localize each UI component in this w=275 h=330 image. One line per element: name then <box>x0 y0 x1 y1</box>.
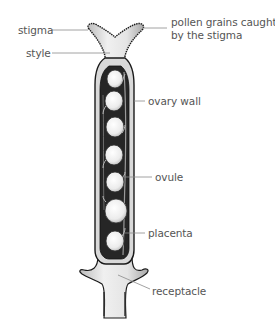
label-ovary-wall: ovary wall <box>148 95 201 108</box>
ovule-7 <box>106 231 124 251</box>
ovule-2 <box>105 91 123 111</box>
label-receptacle: receptacle <box>152 285 206 298</box>
label-placenta: placenta <box>148 227 193 240</box>
label-pollen-line2: by the stigma <box>171 29 242 42</box>
label-stigma: stigma <box>18 24 53 37</box>
ovule-4 <box>105 145 123 165</box>
label-ovule: ovule <box>155 171 183 184</box>
carpel-diagram: stigma style pollen grains caught by the… <box>0 0 275 330</box>
ovule-5 <box>106 172 124 192</box>
receptacle-shape <box>80 256 148 318</box>
ovule-6 <box>105 199 127 223</box>
ovule-3 <box>106 117 124 137</box>
ovule-1 <box>107 70 123 88</box>
label-pollen-line1: pollen grains caught <box>171 16 275 29</box>
label-style: style <box>26 47 51 60</box>
